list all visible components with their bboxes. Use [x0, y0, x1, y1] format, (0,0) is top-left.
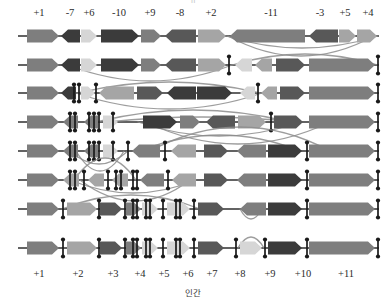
synteny-block — [101, 59, 139, 72]
breakpoint-dot-bottom — [227, 71, 231, 75]
synteny-block — [240, 87, 255, 100]
breakpoint-dot-bottom — [263, 254, 267, 258]
synteny-block — [63, 174, 79, 187]
breakpoint-dot-top — [106, 169, 110, 173]
breakpoint-dot-bottom — [376, 99, 380, 103]
synteny-block — [255, 59, 272, 72]
breakpoint-dot-top — [263, 237, 267, 241]
breakpoint-dot-top — [161, 237, 165, 241]
synteny-block — [88, 174, 104, 187]
breakpoint-dot-top — [72, 82, 76, 86]
top-block-label-5: -8 — [176, 7, 185, 18]
top-block-label-10: +4 — [362, 7, 373, 18]
breakpoint-dot-bottom — [376, 254, 380, 258]
breakpoint-dot-bottom — [61, 215, 65, 219]
breakpoint-dot-top — [227, 54, 231, 58]
synteny-block — [81, 59, 97, 72]
synteny-block — [27, 87, 59, 100]
top-block-label-0: +1 — [33, 7, 44, 18]
breakpoint-dot-bottom — [135, 254, 139, 258]
breakpoint-dot-top — [376, 198, 380, 202]
synteny-block — [67, 242, 97, 255]
breakpoint-dot-bottom — [68, 128, 72, 132]
breakpoint-dot-top — [174, 237, 178, 241]
breakpoint-dot-top — [111, 140, 115, 144]
breakpoint-dot-bottom — [161, 215, 165, 219]
synteny-block — [309, 59, 375, 72]
synteny-block — [198, 59, 226, 72]
breakpoint-dot-top — [163, 140, 167, 144]
breakpoint-dot-top — [68, 169, 72, 173]
row-8-human — [18, 237, 380, 259]
synteny-block — [309, 203, 375, 216]
breakpoint-dot-top — [135, 169, 139, 173]
breakpoint-dot-top — [305, 237, 309, 241]
breakpoint-dot-bottom — [148, 254, 152, 258]
synteny-block — [261, 87, 277, 100]
breakpoint-dot-top — [97, 111, 101, 115]
breakpoint-dot-bottom — [192, 254, 196, 258]
top-block-label-8: -3 — [316, 7, 325, 18]
breakpoint-dot-bottom — [87, 157, 91, 161]
breakpoint-dot-top — [178, 237, 182, 241]
breakpoint-dot-bottom — [119, 186, 123, 190]
breakpoint-dot-top — [61, 237, 65, 241]
synteny-block — [198, 203, 224, 216]
breakpoint-dot-top — [92, 111, 96, 115]
breakpoint-dot-top — [135, 198, 139, 202]
breakpoint-dot-bottom — [123, 215, 127, 219]
breakpoint-dot-bottom — [87, 128, 91, 132]
breakpoint-dot-top — [376, 169, 380, 173]
synteny-block — [137, 87, 163, 100]
breakpoint-dot-top — [305, 198, 309, 202]
breakpoint-dot-top — [131, 169, 135, 173]
breakpoint-dot-bottom — [305, 215, 309, 219]
breakpoint-dot-top — [97, 140, 101, 144]
synteny-block — [100, 242, 122, 255]
breakpoint-dot-bottom — [376, 157, 380, 161]
row-3 — [18, 82, 380, 109]
breakpoint-dot-bottom — [73, 186, 77, 190]
row-7 — [18, 195, 380, 220]
breakpoint-dot-top — [87, 111, 91, 115]
synteny-block — [27, 203, 59, 216]
synteny-block — [100, 203, 122, 216]
synteny-block — [309, 30, 338, 43]
synteny-block — [172, 174, 196, 187]
breakpoint-dot-top — [61, 198, 65, 202]
top-block-label-7: -11 — [264, 7, 278, 18]
synteny-block — [141, 30, 161, 43]
breakpoint-dot-top — [144, 198, 148, 202]
breakpoint-dot-bottom — [72, 99, 76, 103]
synteny-block — [99, 87, 134, 100]
synteny-block — [204, 174, 228, 187]
synteny-block — [309, 174, 375, 187]
synteny-block — [171, 145, 196, 158]
breakpoint-dot-top — [174, 198, 178, 202]
breakpoint-dot-bottom — [97, 215, 101, 219]
synteny-block — [198, 242, 224, 255]
top-block-label-2: +6 — [83, 7, 94, 18]
synteny-block — [27, 174, 59, 187]
synteny-block — [309, 116, 375, 129]
synteny-block — [101, 30, 139, 43]
breakpoint-dot-top — [144, 237, 148, 241]
breakpoint-dot-top — [131, 198, 135, 202]
row-2 — [18, 54, 380, 81]
breakpoint-dot-top — [305, 169, 309, 173]
breakpoint-dot-bottom — [73, 128, 77, 132]
breakpoint-dot-bottom — [376, 128, 380, 132]
breakpoint-dot-top — [92, 140, 96, 144]
synteny-block — [280, 87, 305, 100]
top-block-label-3: -10 — [112, 7, 126, 18]
synteny-block — [27, 242, 59, 255]
breakpoint-dot-bottom — [68, 186, 72, 190]
breakpoint-dot-top — [269, 111, 273, 115]
breakpoint-dot-top — [77, 82, 81, 86]
breakpoint-dot-bottom — [161, 254, 165, 258]
synteny-block — [268, 174, 302, 187]
synteny-block — [27, 116, 59, 129]
synteny-block — [27, 30, 59, 43]
breakpoint-dot-bottom — [135, 186, 139, 190]
row-5 — [18, 127, 380, 171]
